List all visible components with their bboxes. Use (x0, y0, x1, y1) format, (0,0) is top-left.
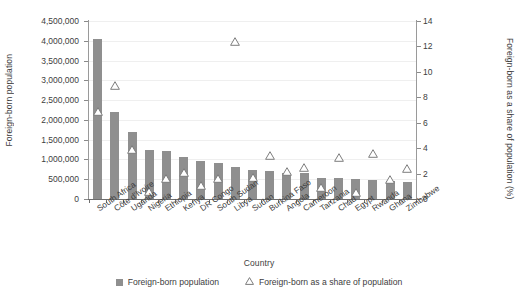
y-tick-label-left: 2,000,000 (41, 115, 79, 125)
data-marker-triangle-icon (402, 164, 412, 173)
data-marker-triangle-icon (161, 174, 171, 183)
gridline (89, 159, 416, 160)
y-tick-left (84, 21, 88, 22)
y-tick-right (417, 123, 421, 124)
y-tick-left (84, 80, 88, 81)
y-tick-label-left: 4,500,000 (41, 16, 79, 26)
legend-item-bar: Foreign-born population (116, 277, 219, 287)
data-marker-triangle-icon (110, 81, 120, 90)
y-tick-left (84, 61, 88, 62)
y-tick-left (84, 41, 88, 42)
legend-item-marker: Foreign-born as a share of population (245, 277, 402, 287)
gridline (89, 140, 416, 141)
y-tick-left (84, 120, 88, 121)
y-tick-left (84, 100, 88, 101)
data-marker-triangle-icon (93, 107, 103, 116)
chart-container: Foreign-born population Foreign-born as … (0, 0, 518, 306)
legend-label-marker: Foreign-born as a share of population (259, 277, 402, 287)
y-tick-right (417, 72, 421, 73)
y-tick-left (84, 140, 88, 141)
data-marker-triangle-icon (196, 181, 206, 190)
y-tick-label-left: 0 (74, 194, 79, 204)
y-tick-left (84, 159, 88, 160)
gridline (89, 120, 416, 121)
data-marker-triangle-icon (213, 174, 223, 183)
y-tick-left (84, 199, 88, 200)
data-marker-triangle-icon (385, 175, 395, 184)
data-marker-triangle-icon (179, 168, 189, 177)
y-tick-label-left: 1,000,000 (41, 154, 79, 164)
y-tick-label-right: 12 (423, 41, 432, 51)
x-axis-title: Country (0, 258, 518, 268)
y-tick-label-right: 4 (423, 143, 428, 153)
data-marker-triangle-icon (282, 167, 292, 176)
y-tick-label-right: 14 (423, 16, 432, 26)
y-tick-label-left: 500,000 (48, 174, 79, 184)
bar (93, 39, 102, 199)
gridline (89, 80, 416, 81)
y-tick-label-left: 3,500,000 (41, 56, 79, 66)
y-tick-right (417, 148, 421, 149)
y-tick-right (417, 46, 421, 47)
y-tick-label-left: 4,000,000 (41, 36, 79, 46)
y-tick-label-right: 6 (423, 118, 428, 128)
y-tick-right (417, 174, 421, 175)
y-tick-label-right: 2 (423, 169, 428, 179)
gridline (89, 61, 416, 62)
y-tick-right (417, 21, 421, 22)
chart-legend: Foreign-born population Foreign-born as … (0, 277, 518, 287)
data-marker-triangle-icon (299, 163, 309, 172)
y-axis-right-title: Foreign-born as a share of population (%… (503, 38, 517, 199)
y-tick-left (84, 179, 88, 180)
data-marker-triangle-icon (265, 151, 275, 160)
bar (110, 112, 119, 199)
legend-label-bar: Foreign-born population (128, 277, 219, 287)
gridline (89, 41, 416, 42)
data-marker-triangle-icon (230, 37, 240, 46)
gridline (89, 21, 416, 22)
data-marker-triangle-icon (368, 149, 378, 158)
y-tick-label-left: 3,000,000 (41, 75, 79, 85)
y-tick-label-left: 1,500,000 (41, 135, 79, 145)
y-tick-label-right: 10 (423, 67, 432, 77)
x-tick (89, 200, 90, 203)
legend-swatch-triangle-icon (245, 277, 254, 287)
y-tick-right (417, 97, 421, 98)
data-marker-triangle-icon (334, 153, 344, 162)
plot-area (89, 21, 416, 199)
y-tick-label-right: 8 (423, 92, 428, 102)
y-tick-label-left: 2,500,000 (41, 95, 79, 105)
legend-swatch-square (116, 279, 123, 286)
y-axis-left-title: Foreign-born population (2, 54, 16, 147)
data-marker-triangle-icon (127, 145, 137, 154)
gridline (89, 100, 416, 101)
